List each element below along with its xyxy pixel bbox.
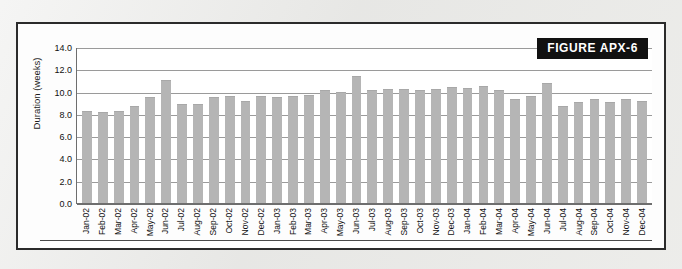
bar xyxy=(209,97,219,203)
x-tick-label: Dec-04 xyxy=(637,208,647,235)
y-tick-label: 2.0 xyxy=(59,177,72,187)
bar-slot xyxy=(142,48,158,203)
bar xyxy=(241,101,251,204)
x-tick-label: Aug-02 xyxy=(192,208,202,235)
bar-slot xyxy=(238,48,254,203)
bar-slot xyxy=(634,48,650,203)
x-tick-label: Nov-02 xyxy=(240,208,250,235)
bar xyxy=(463,88,473,203)
bar xyxy=(82,111,92,203)
y-tick-label: 6.0 xyxy=(59,132,72,142)
bar xyxy=(336,92,346,203)
x-tick-label: Jan-02 xyxy=(81,208,91,234)
bar xyxy=(272,97,282,203)
figure-number-badge: FIGURE APX-6 xyxy=(537,38,648,59)
bar-slot xyxy=(317,48,333,203)
bar xyxy=(447,87,457,203)
x-tick-label: Feb-02 xyxy=(97,208,107,235)
bar-slot xyxy=(190,48,206,203)
x-tick-label: Dec-03 xyxy=(446,208,456,235)
y-tick-label: 4.0 xyxy=(59,154,72,164)
x-tick-label: Jun-04 xyxy=(542,208,552,234)
x-tick-label: Sep-03 xyxy=(399,208,409,235)
bar xyxy=(431,89,441,203)
bar-slot xyxy=(475,48,491,203)
bar-series xyxy=(77,48,652,203)
x-tick-label: Apr-04 xyxy=(510,208,520,234)
x-tick-label: Sep-02 xyxy=(208,208,218,235)
bar-slot xyxy=(285,48,301,203)
bar-slot xyxy=(301,48,317,203)
y-tick-label: 12.0 xyxy=(54,65,72,75)
y-tick-label: 10.0 xyxy=(54,88,72,98)
bar-slot xyxy=(79,48,95,203)
bar xyxy=(177,104,187,203)
bar-slot xyxy=(602,48,618,203)
bar xyxy=(621,99,631,203)
x-tick-label: May-02 xyxy=(145,208,155,236)
bar-slot xyxy=(444,48,460,203)
x-tick-label: Feb-03 xyxy=(288,208,298,235)
x-tick-label: Jun-02 xyxy=(160,208,170,234)
bar-slot xyxy=(158,48,174,203)
bar xyxy=(399,89,409,203)
x-tick-label: Jul-02 xyxy=(176,208,186,231)
bar-slot xyxy=(460,48,476,203)
bar xyxy=(510,99,520,203)
x-tick-label: Mar-02 xyxy=(113,208,123,235)
figure-panel: FIGURE APX-6 Duration (weeks) 14.012.010… xyxy=(16,22,666,250)
x-tick-label: Feb-04 xyxy=(478,208,488,235)
bar-slot xyxy=(206,48,222,203)
x-tick-label: Aug-03 xyxy=(383,208,393,235)
bar xyxy=(367,90,377,203)
bar-slot xyxy=(222,48,238,203)
y-tick-label: 8.0 xyxy=(59,110,72,120)
x-tick-label: Jan-03 xyxy=(272,208,282,234)
bar xyxy=(526,96,536,203)
x-tick-label: Jul-03 xyxy=(367,208,377,231)
x-tick-label: Jul-04 xyxy=(558,208,568,231)
bar xyxy=(605,102,615,203)
bar xyxy=(542,83,552,203)
bar-slot xyxy=(333,48,349,203)
x-tick-label: May-04 xyxy=(526,208,536,236)
bar-slot xyxy=(428,48,444,203)
bar xyxy=(637,101,647,204)
x-axis-rule xyxy=(40,240,652,241)
bar xyxy=(558,106,568,203)
bar xyxy=(415,90,425,203)
bar xyxy=(161,80,171,203)
bar xyxy=(98,112,108,203)
bar xyxy=(225,96,235,203)
x-tick-label: Apr-02 xyxy=(129,208,139,234)
bar-slot xyxy=(111,48,127,203)
bar-slot xyxy=(127,48,143,203)
x-tick-label: Dec-02 xyxy=(256,208,266,235)
bar-slot xyxy=(523,48,539,203)
bar xyxy=(494,90,504,203)
bar-slot xyxy=(491,48,507,203)
bar xyxy=(145,97,155,203)
x-tick-label: Apr-03 xyxy=(319,208,329,234)
bar xyxy=(320,90,330,203)
x-tick-label: Nov-04 xyxy=(621,208,631,235)
y-tick-label: 14.0 xyxy=(54,43,72,53)
bar-slot xyxy=(618,48,634,203)
bar-slot xyxy=(95,48,111,203)
bar-slot xyxy=(412,48,428,203)
bar-slot xyxy=(507,48,523,203)
bar xyxy=(193,104,203,203)
bar xyxy=(256,96,266,203)
bar xyxy=(304,95,314,203)
bar-slot xyxy=(539,48,555,203)
bar-slot xyxy=(587,48,603,203)
bar-slot xyxy=(349,48,365,203)
y-tick-label: 0.0 xyxy=(59,199,72,209)
bar-slot xyxy=(253,48,269,203)
x-tick-label: Jun-03 xyxy=(351,208,361,234)
x-tick-label: Mar-04 xyxy=(494,208,504,235)
x-tick-label: Oct-03 xyxy=(415,208,425,234)
x-tick-label: Oct-02 xyxy=(224,208,234,234)
x-tick-label: May-03 xyxy=(335,208,345,236)
x-tick-label: Nov-03 xyxy=(431,208,441,235)
